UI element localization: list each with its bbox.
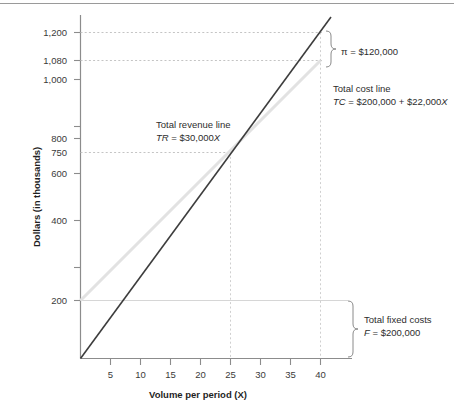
annotation-total-cost: Total cost line TC = $200,000 + $22,000X — [333, 83, 448, 108]
annotation-total-cost-equation: TC = $200,000 + $22,000X — [333, 96, 448, 109]
y-tick-label-1080: 1,080 — [27, 55, 67, 66]
vertical-reference-lines — [231, 33, 321, 359]
y-tick-label-800: 800 — [27, 133, 67, 144]
fixed-eq-body: = $200,000 — [370, 327, 420, 338]
annotation-total-revenue-title: Total revenue line — [156, 119, 230, 132]
annotation-profit-text: π = $120,000 — [341, 46, 398, 57]
x-tick-label-35: 35 — [276, 369, 306, 380]
y-tick-label-200: 200 — [27, 295, 67, 306]
x-tick-label-5: 5 — [96, 369, 126, 380]
cost-eq-variable: X — [441, 96, 447, 107]
y-tick-label-1000: 1,000 — [27, 74, 67, 85]
revenue-eq-symbol: TR — [156, 132, 169, 143]
x-axis-title: Volume per period (X) — [149, 389, 247, 400]
x-tick-label-20: 20 — [186, 369, 216, 380]
x-tick-label-10: 10 — [126, 369, 156, 380]
annotation-total-cost-title: Total cost line — [333, 83, 448, 96]
annotation-total-revenue-equation: TR = $30,000X — [156, 132, 230, 145]
x-tick-label-40: 40 — [306, 369, 336, 380]
total-cost-line — [81, 61, 321, 301]
y-tick-label-1200: 1,200 — [27, 27, 67, 38]
x-tick-label-25: 25 — [216, 369, 246, 380]
chart-plot-area — [0, 0, 454, 414]
x-axis-title-text: Volume per period (X) — [149, 389, 247, 400]
fixed-costs-bracket — [348, 301, 358, 357]
annotation-fixed-costs: Total fixed costs F = $200,000 — [364, 314, 432, 339]
total-revenue-line — [81, 17, 332, 359]
cost-eq-body: = $200,000 + $22,000 — [346, 96, 442, 107]
revenue-eq-variable: X — [214, 132, 220, 143]
y-tick-marks — [74, 33, 81, 301]
annotation-total-revenue: Total revenue line TR = $30,000X — [156, 119, 230, 144]
y-axis-title: Dollars (in thousands) — [31, 147, 42, 247]
revenue-eq-body: = $30,000 — [169, 132, 214, 143]
x-tick-label-15: 15 — [156, 369, 186, 380]
profit-bracket — [326, 31, 336, 67]
annotation-profit: π = $120,000 — [341, 46, 398, 59]
cost-eq-symbol: TC — [333, 96, 346, 107]
x-tick-label-30: 30 — [246, 369, 276, 380]
annotation-fixed-costs-title: Total fixed costs — [364, 314, 432, 327]
breakeven-chart-figure: 1,200 1,080 1,000 800 750 600 400 200 5 … — [0, 0, 454, 414]
annotation-fixed-costs-equation: F = $200,000 — [364, 327, 432, 340]
x-tick-marks — [111, 359, 321, 366]
